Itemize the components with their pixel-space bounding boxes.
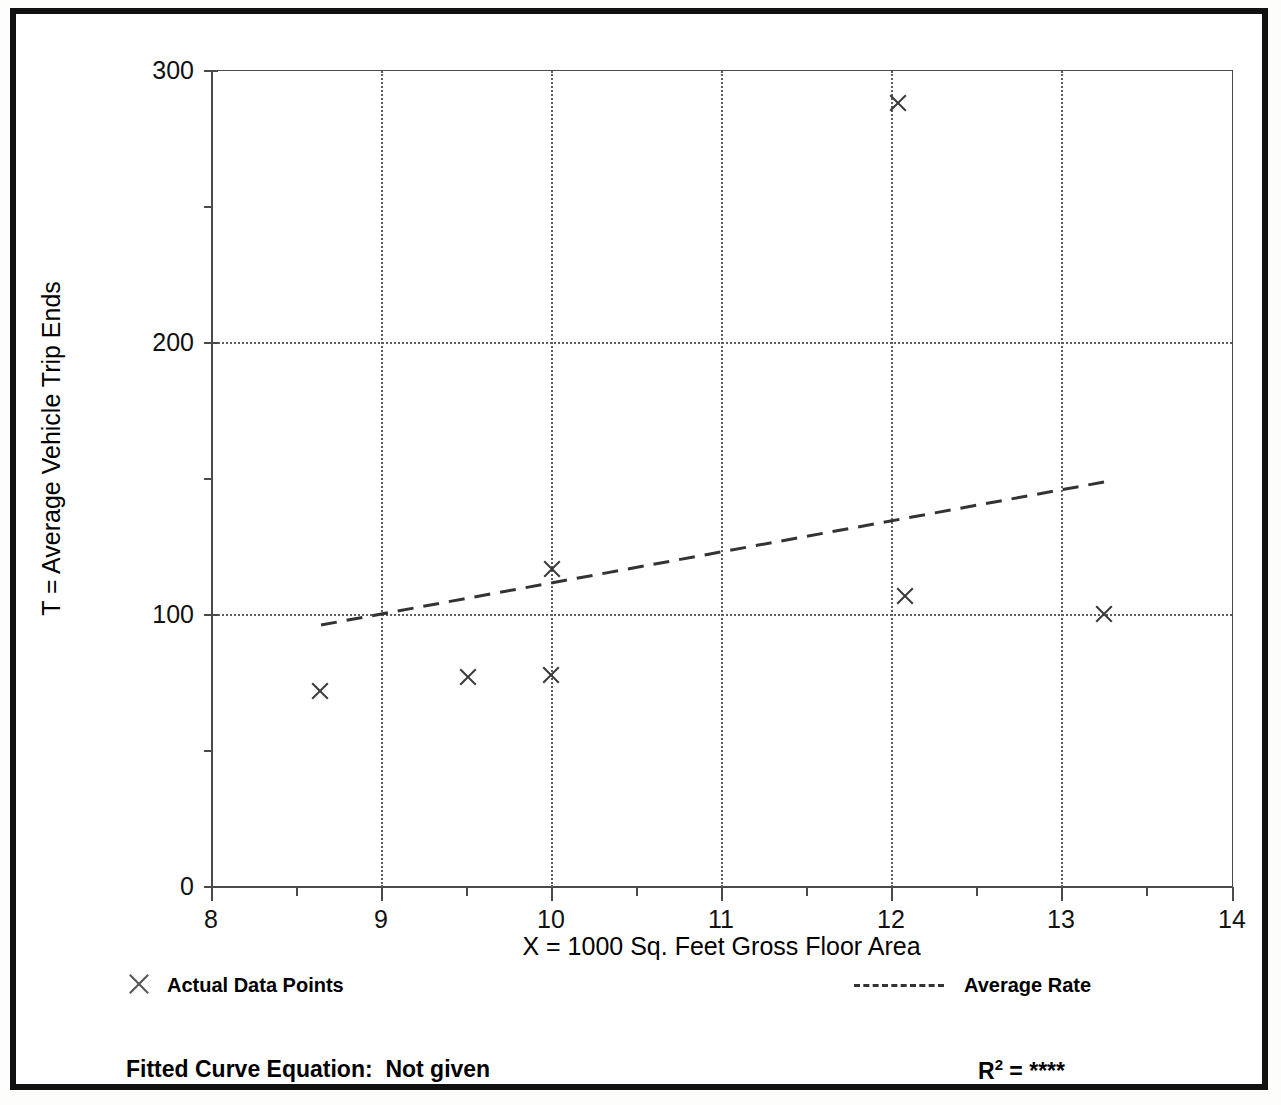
- data-point: [894, 585, 916, 607]
- gridline-x-13: [1061, 71, 1063, 887]
- fitted-curve-equation-label: Fitted Curve Equation: Not given: [126, 1056, 490, 1083]
- y-tick-label-0: 0: [96, 872, 194, 901]
- r-squared-exponent: 2: [995, 1056, 1003, 1073]
- data-point: [1093, 603, 1115, 625]
- y-tick-50: [204, 750, 213, 752]
- r-squared-annotation: R2 = ****: [978, 1056, 1065, 1085]
- x-tick-label-14: 14: [1182, 905, 1281, 934]
- y-tick-label-300: 300: [96, 56, 194, 85]
- x-tick-10: [551, 887, 553, 901]
- data-point: [309, 680, 331, 702]
- x-tick-8p5: [296, 887, 298, 896]
- x-tick-label-12: 12: [841, 905, 941, 934]
- x-tick-label-13: 13: [1011, 905, 1111, 934]
- y-tick-300: [204, 70, 218, 72]
- x-tick-label-11: 11: [671, 905, 771, 934]
- x-tick-8: [211, 887, 213, 901]
- figure-border-frame: 300 200 100 0 8 9 10 11 12 13 14 T = Ave…: [10, 8, 1268, 1090]
- x-tick-label-8: 8: [161, 905, 261, 934]
- x-tick-10p5: [636, 887, 638, 896]
- x-tick-9: [381, 887, 383, 901]
- plot-frame-right: [1232, 70, 1233, 888]
- legend-label-actual-data-points: Actual Data Points: [167, 974, 344, 997]
- x-marker-icon: [126, 971, 152, 997]
- x-tick-12p5: [976, 887, 978, 896]
- data-point: [887, 92, 909, 114]
- y-tick-150: [204, 478, 213, 480]
- y-tick-label-100: 100: [96, 600, 194, 629]
- dashed-line-icon: [854, 984, 944, 987]
- legend-marker-data-points: [126, 971, 156, 1001]
- x-tick-13p5: [1146, 887, 1148, 896]
- chart-figure: 300 200 100 0 8 9 10 11 12 13 14 T = Ave…: [0, 0, 1281, 1105]
- x-tick-12: [891, 887, 893, 901]
- y-tick-250: [204, 206, 213, 208]
- x-tick-label-10: 10: [501, 905, 601, 934]
- y-tick-200: [204, 342, 218, 344]
- data-point: [540, 664, 562, 686]
- gridline-x-9: [381, 71, 383, 887]
- x-tick-13: [1061, 887, 1063, 901]
- x-tick-11: [721, 887, 723, 901]
- gridline-x-12: [891, 71, 893, 887]
- x-tick-14: [1232, 887, 1234, 901]
- r-squared-equals: =: [1003, 1058, 1029, 1084]
- y-tick-100: [204, 614, 218, 616]
- gridline-x-10: [551, 71, 553, 887]
- x-tick-11p5: [806, 887, 808, 896]
- r-squared-value: ****: [1029, 1058, 1065, 1084]
- x-tick-9p5: [466, 887, 468, 896]
- legend-label-average-rate: Average Rate: [964, 974, 1091, 997]
- gridline-x-11: [721, 71, 723, 887]
- x-axis-title: X = 1000 Sq. Feet Gross Floor Area: [211, 932, 1232, 961]
- y-axis-title: T = Average Vehicle Trip Ends: [37, 149, 66, 749]
- y-tick-label-200: 200: [96, 328, 194, 357]
- data-point: [541, 558, 563, 580]
- r-squared-prefix: R: [978, 1058, 995, 1084]
- data-point: [457, 666, 479, 688]
- x-tick-label-9: 9: [331, 905, 431, 934]
